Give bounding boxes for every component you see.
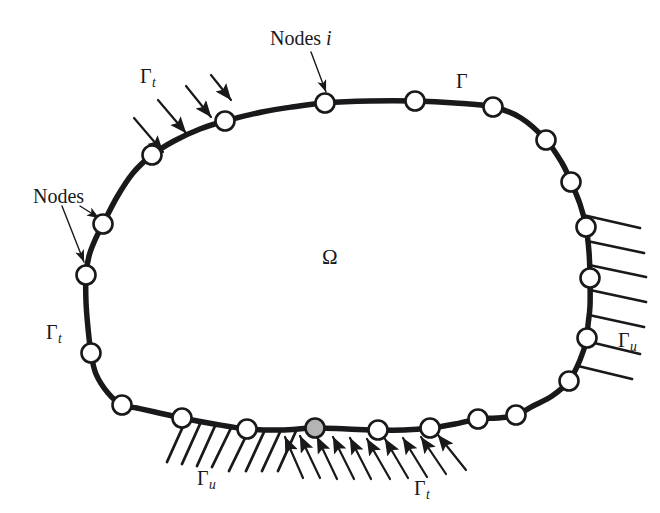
label-gamma-u-right: Γu xyxy=(618,330,637,354)
label-nodes-i: Nodes i xyxy=(270,28,332,48)
label-nodes-i-prefix: Nodes xyxy=(270,27,326,49)
label-omega-domain: Ω xyxy=(322,247,338,268)
label-omega-symbol: Ω xyxy=(322,245,338,269)
label-gamma-boundary: Γ xyxy=(456,71,468,91)
label-nodes-text: Nodes xyxy=(33,185,84,207)
label-gamma-symbol: Γ xyxy=(456,70,468,92)
label-gamma-u-bottom-sub: u xyxy=(209,477,216,492)
label-gamma-t-top: Γt xyxy=(140,66,156,90)
label-gamma-t-bottom-sub: t xyxy=(426,487,430,502)
label-gamma-t-bottom-symbol: Γ xyxy=(414,477,426,499)
label-gamma-u-right-sub: u xyxy=(630,339,637,354)
label-gamma-t-top-sub: t xyxy=(152,75,156,90)
label-gamma-t-left-sub: t xyxy=(58,331,62,346)
label-gamma-u-right-symbol: Γ xyxy=(618,329,630,351)
label-gamma-t-top-symbol: Γ xyxy=(140,65,152,87)
label-gamma-u-bottom-symbol: Γ xyxy=(197,467,209,489)
figure-canvas: Nodes i Γ Γt Nodes Ω Γt Γu Γu Γt xyxy=(0,0,660,513)
label-gamma-t-left: Γt xyxy=(46,322,62,346)
label-gamma-u-bottom: Γu xyxy=(197,468,216,492)
label-gamma-t-bottom: Γt xyxy=(414,478,430,502)
label-nodes: Nodes xyxy=(33,186,84,206)
traction-arrows-bottom-group xyxy=(285,435,466,479)
label-nodes-i-index: i xyxy=(326,27,332,49)
label-gamma-t-left-symbol: Γ xyxy=(46,321,58,343)
